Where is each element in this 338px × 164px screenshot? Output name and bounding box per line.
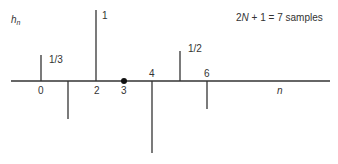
stem-plot bbox=[0, 0, 338, 164]
tick-label-6: 6 bbox=[204, 69, 210, 79]
y-label-sub: n bbox=[17, 19, 21, 26]
title-var: N bbox=[242, 12, 249, 23]
title-post: + 1 = 7 samples bbox=[249, 12, 323, 23]
tick-label-0: 0 bbox=[38, 86, 44, 96]
value-label-n5: 1/2 bbox=[188, 44, 202, 54]
chart-title: 2N + 1 = 7 samples bbox=[236, 13, 323, 23]
y-axis-label: hn bbox=[11, 15, 20, 28]
value-label-n0: 1/3 bbox=[49, 55, 63, 65]
center-dot-n3 bbox=[121, 78, 127, 84]
tick-label-3: 3 bbox=[121, 86, 127, 96]
value-label-n2: 1 bbox=[102, 11, 108, 21]
x-axis-label: n bbox=[277, 86, 283, 96]
tick-label-2: 2 bbox=[94, 86, 100, 96]
tick-label-4: 4 bbox=[149, 69, 155, 79]
